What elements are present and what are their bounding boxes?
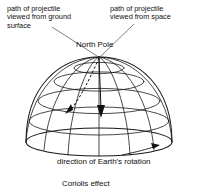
label-north-pole: North Pole bbox=[76, 41, 113, 49]
space-path-trajectory bbox=[97, 58, 105, 118]
space-path-arrowhead bbox=[97, 105, 105, 118]
label-earth-rotation-direction: direction of Earth's rotation bbox=[57, 158, 150, 166]
label-path-from-ground: path of projectile viewed from ground su… bbox=[7, 5, 71, 30]
rotation-arrowhead bbox=[151, 143, 160, 149]
figure-caption: Coriolis effect bbox=[62, 180, 110, 188]
ground-path-trajectory bbox=[65, 58, 99, 114]
coriolis-effect-figure: path of projectile viewed from ground su… bbox=[0, 0, 201, 196]
label-path-from-space: path of projectile viewed from space bbox=[110, 5, 171, 22]
